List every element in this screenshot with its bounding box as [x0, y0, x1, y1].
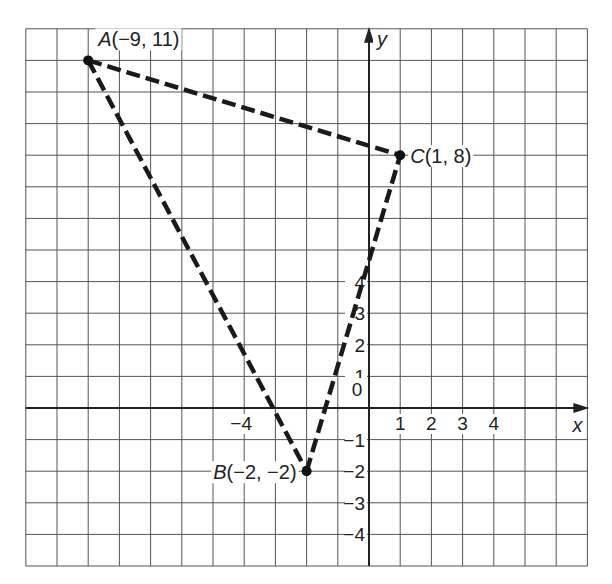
- origin-label: 0: [352, 379, 363, 400]
- y-axis-label: y: [375, 28, 388, 50]
- point-c-icon: [395, 150, 405, 160]
- segment-ab: [88, 60, 306, 471]
- grid-lines: [26, 29, 588, 566]
- point-a-label: A(−9, 11): [97, 28, 179, 50]
- x-tick-label: 1: [395, 413, 406, 434]
- y-tick-label: 2: [354, 335, 365, 356]
- x-tick-label: 4: [489, 413, 500, 434]
- point-b-icon: [302, 466, 312, 476]
- y-tick-label: −2: [343, 461, 365, 482]
- point-c-label: C(1, 8): [410, 145, 471, 167]
- y-tick-label: −1: [343, 430, 365, 451]
- coordinate-plane: −412344321−1−2−3−40xy A(−9, 11)B(−2, −2)…: [0, 0, 612, 584]
- x-tick-label: 3: [457, 413, 468, 434]
- x-tick-label: 2: [426, 413, 437, 434]
- axes: [26, 27, 590, 566]
- x-tick-label: −4: [230, 413, 252, 434]
- y-tick-label: −4: [343, 524, 365, 545]
- point-a-icon: [83, 55, 93, 65]
- y-tick-label: −3: [343, 493, 365, 514]
- x-axis-label: x: [571, 414, 583, 436]
- point-b-label: B(−2, −2): [213, 461, 296, 483]
